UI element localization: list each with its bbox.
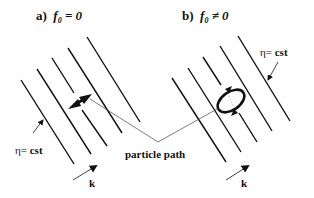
panel-a-k-label: k (89, 178, 95, 189)
panel-a-label: a) (36, 8, 47, 23)
panel-b-eta-pointer (268, 62, 278, 80)
diagram: a) f0 = 0 b) f0 ≠ 0 η= cst η= cst partic… (0, 0, 314, 198)
eta-value: cst (30, 144, 43, 156)
panel-b-subscript: 0 (204, 16, 208, 25)
eta-symbol: η= (260, 46, 272, 58)
panel-a-eta-label: η= cst (15, 145, 43, 156)
diagram-graphics (0, 0, 314, 198)
eta-value: cst (275, 46, 288, 58)
panel-a-eta-pointer (33, 120, 43, 133)
panel-b-orbit (214, 85, 249, 117)
panel-b-label: b) (182, 8, 194, 23)
panel-a-oscillation-arrow (68, 94, 92, 109)
particle-path-label: particle path (125, 149, 185, 160)
panel-b-eta-label: η= cst (260, 47, 288, 58)
panel-b-title: b) f0 ≠ 0 (182, 9, 229, 25)
panel-b-k-label: k (241, 178, 247, 189)
eta-symbol: η= (15, 144, 27, 156)
panel-a-title: a) f0 = 0 (36, 9, 82, 25)
panel-a-condition: = 0 (65, 8, 82, 23)
particle-path-leader (90, 99, 217, 142)
panel-a-subscript: 0 (58, 16, 62, 25)
panel-b-condition: ≠ 0 (212, 8, 229, 23)
